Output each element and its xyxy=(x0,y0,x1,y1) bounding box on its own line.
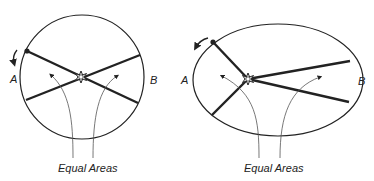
equal-areas-caption: Equal Areas xyxy=(58,162,118,174)
equal-area-pointer-arrow-icon xyxy=(222,76,259,158)
elliptical-orbit-path xyxy=(193,24,363,136)
radius-line xyxy=(213,42,248,79)
radius-line xyxy=(212,79,248,115)
point-a-label: A xyxy=(180,74,188,86)
point-b-label: B xyxy=(358,75,365,87)
orbit-direction-arrow-icon xyxy=(196,38,208,47)
point-b-label: B xyxy=(150,74,157,86)
radius-line xyxy=(248,61,350,79)
orbit-direction-arrow-icon xyxy=(13,50,17,63)
equal-area-pointer-arrow-icon xyxy=(93,76,117,158)
equal-area-pointer-arrow-icon xyxy=(280,77,320,158)
equal-area-pointer-arrow-icon xyxy=(51,75,73,158)
planet-dot xyxy=(24,48,29,53)
circular-orbit-figure: A B Equal Areas xyxy=(9,15,157,174)
elliptical-orbit-figure: A B Equal Areas xyxy=(180,24,365,174)
point-a-label: A xyxy=(9,73,17,85)
planet-dot xyxy=(210,39,215,44)
equal-areas-caption: Equal Areas xyxy=(244,162,304,174)
diagram-canvas: A B Equal Areas A B Equal Areas xyxy=(0,0,374,181)
